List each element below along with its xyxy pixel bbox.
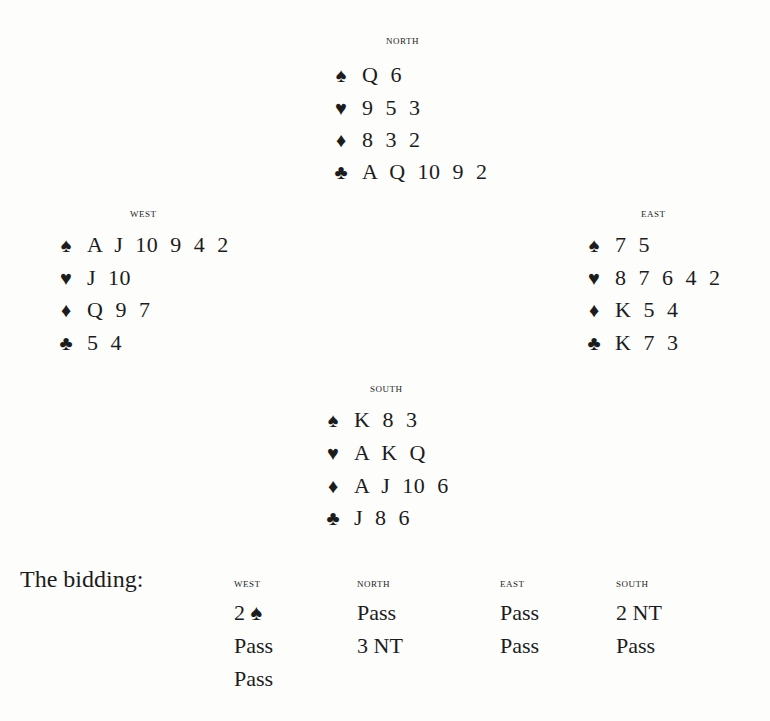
heart-icon: ♥ bbox=[322, 443, 344, 463]
bidding-column-west: WEST 2 ♠ Pass Pass bbox=[234, 570, 273, 695]
bidding-header-south: SOUTH bbox=[616, 570, 662, 596]
south-clubs-cards: J 8 6 bbox=[354, 505, 410, 531]
heart-icon: ♥ bbox=[330, 98, 352, 118]
north-spades-cards: Q 6 bbox=[362, 62, 402, 88]
east-label: EAST bbox=[641, 205, 666, 221]
north-hearts-row: ♥ 9 5 3 bbox=[330, 93, 421, 123]
club-icon: ♣ bbox=[583, 333, 605, 353]
south-hearts-row: ♥ A K Q bbox=[322, 438, 426, 468]
north-hearts-cards: 9 5 3 bbox=[362, 95, 421, 121]
north-diamonds-cards: 8 3 2 bbox=[362, 127, 421, 153]
bidding-header-west: WEST bbox=[234, 570, 273, 596]
club-icon: ♣ bbox=[322, 508, 344, 528]
west-label: WEST bbox=[130, 205, 157, 221]
west-hearts-row: ♥ J 10 bbox=[55, 263, 131, 293]
east-clubs-cards: K 7 3 bbox=[615, 330, 678, 356]
bid-cell: 2 ♠ bbox=[234, 596, 273, 629]
bid-cell: Pass bbox=[500, 629, 539, 662]
south-diamonds-row: ♦ A J 10 6 bbox=[322, 471, 449, 501]
diamond-icon: ♦ bbox=[583, 300, 605, 320]
east-hearts-row: ♥ 8 7 6 4 2 bbox=[583, 263, 721, 293]
west-diamonds-cards: Q 9 7 bbox=[87, 297, 150, 323]
north-clubs-row: ♣ A Q 10 9 2 bbox=[330, 157, 488, 187]
club-icon: ♣ bbox=[55, 333, 77, 353]
east-spades-cards: 7 5 bbox=[615, 232, 650, 258]
club-icon: ♣ bbox=[330, 162, 352, 182]
south-hearts-cards: A K Q bbox=[354, 440, 426, 466]
west-spades-cards: A J 10 9 4 2 bbox=[87, 232, 229, 258]
west-spades-row: ♠ A J 10 9 4 2 bbox=[55, 230, 229, 260]
south-label: SOUTH bbox=[370, 380, 403, 396]
north-label: NORTH bbox=[386, 32, 419, 48]
bidding-title: The bidding: bbox=[20, 566, 143, 593]
west-hearts-cards: J 10 bbox=[87, 265, 131, 291]
diamond-icon: ♦ bbox=[55, 300, 77, 320]
west-diamonds-row: ♦ Q 9 7 bbox=[55, 295, 150, 325]
bidding-column-north: NORTH Pass 3 NT bbox=[357, 570, 403, 662]
west-clubs-cards: 5 4 bbox=[87, 330, 122, 356]
spade-icon: ♠ bbox=[322, 410, 344, 430]
north-diamonds-row: ♦ 8 3 2 bbox=[330, 125, 421, 155]
west-clubs-row: ♣ 5 4 bbox=[55, 328, 122, 358]
east-hearts-cards: 8 7 6 4 2 bbox=[615, 265, 721, 291]
spade-icon: ♠ bbox=[583, 235, 605, 255]
north-clubs-cards: A Q 10 9 2 bbox=[362, 159, 488, 185]
bidding-header-north: NORTH bbox=[357, 570, 403, 596]
heart-icon: ♥ bbox=[583, 268, 605, 288]
diamond-icon: ♦ bbox=[322, 476, 344, 496]
spade-icon: ♠ bbox=[330, 65, 352, 85]
heart-icon: ♥ bbox=[55, 268, 77, 288]
east-diamonds-cards: K 5 4 bbox=[615, 297, 678, 323]
north-spades-row: ♠ Q 6 bbox=[330, 60, 402, 90]
south-spades-cards: K 8 3 bbox=[354, 407, 417, 433]
south-clubs-row: ♣ J 8 6 bbox=[322, 503, 410, 533]
diamond-icon: ♦ bbox=[330, 130, 352, 150]
bid-cell: 2 NT bbox=[616, 596, 662, 629]
bid-cell: Pass bbox=[616, 629, 662, 662]
bidding-header-east: EAST bbox=[500, 570, 539, 596]
east-clubs-row: ♣ K 7 3 bbox=[583, 328, 678, 358]
south-diamonds-cards: A J 10 6 bbox=[354, 473, 449, 499]
east-spades-row: ♠ 7 5 bbox=[583, 230, 650, 260]
bidding-column-south: SOUTH 2 NT Pass bbox=[616, 570, 662, 662]
bid-cell: Pass bbox=[357, 596, 403, 629]
bid-cell: 3 NT bbox=[357, 629, 403, 662]
east-diamonds-row: ♦ K 5 4 bbox=[583, 295, 678, 325]
bidding-column-east: EAST Pass Pass bbox=[500, 570, 539, 662]
spade-icon: ♠ bbox=[55, 235, 77, 255]
bid-cell: Pass bbox=[500, 596, 539, 629]
bid-cell: Pass bbox=[234, 662, 273, 695]
bid-cell: Pass bbox=[234, 629, 273, 662]
south-spades-row: ♠ K 8 3 bbox=[322, 405, 417, 435]
